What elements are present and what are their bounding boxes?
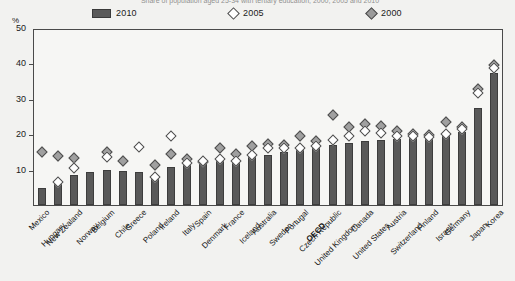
- hollow-diamond-icon: [227, 7, 240, 20]
- bar-2010[interactable]: [103, 170, 111, 205]
- y-axis-tick-label: 20: [6, 129, 26, 139]
- chart-column[interactable]: [292, 30, 308, 205]
- chart-column[interactable]: [373, 30, 389, 205]
- chart-column[interactable]: [308, 30, 324, 205]
- bar-2010[interactable]: [377, 140, 385, 205]
- marker-2000[interactable]: [295, 130, 306, 141]
- chart-column[interactable]: [437, 30, 453, 205]
- chart-column[interactable]: [324, 30, 340, 205]
- bar-2010[interactable]: [329, 145, 337, 205]
- y-axis-tick-label: 50: [6, 23, 26, 33]
- chart-legend: 2010 2005 2000: [0, 6, 515, 20]
- marker-2000[interactable]: [440, 117, 451, 128]
- y-axis-tick-label: 30: [6, 94, 26, 104]
- bar-2010[interactable]: [264, 155, 272, 205]
- marker-2000[interactable]: [117, 155, 128, 166]
- bar-2010[interactable]: [312, 148, 320, 205]
- marker-2005[interactable]: [69, 162, 80, 173]
- chart-column[interactable]: [115, 30, 131, 205]
- bar-swatch-icon: [92, 9, 111, 18]
- marker-2000[interactable]: [327, 110, 338, 121]
- bar-2010[interactable]: [280, 152, 288, 205]
- bar-2010[interactable]: [38, 188, 46, 205]
- bar-2010[interactable]: [86, 172, 94, 205]
- marker-2000[interactable]: [165, 148, 176, 159]
- chart-column[interactable]: [260, 30, 276, 205]
- chart-column[interactable]: [195, 30, 211, 205]
- chart-column[interactable]: [341, 30, 357, 205]
- legend-label-2010: 2010: [116, 8, 137, 18]
- legend-label-2000: 2000: [381, 8, 402, 18]
- bar-2010[interactable]: [409, 138, 417, 205]
- chart-column[interactable]: [50, 30, 66, 205]
- marker-2000[interactable]: [149, 159, 160, 170]
- x-axis-label-finland: Finland: [416, 208, 441, 233]
- x-axis-label-austria: Austria: [384, 208, 408, 232]
- bar-2010[interactable]: [135, 172, 143, 205]
- chart-column[interactable]: [244, 30, 260, 205]
- legend-label-2005: 2005: [243, 8, 264, 18]
- x-axis-label-korea: Korea: [484, 208, 505, 229]
- marker-2000[interactable]: [36, 147, 47, 158]
- chart-root: Share of population aged 25-34 with tert…: [0, 0, 515, 281]
- bar-2010[interactable]: [70, 175, 78, 205]
- chart-column[interactable]: [131, 30, 147, 205]
- chart-column[interactable]: [147, 30, 163, 205]
- bar-2010[interactable]: [183, 165, 191, 205]
- chart-column[interactable]: [179, 30, 195, 205]
- bar-2010[interactable]: [119, 171, 127, 205]
- bar-2010[interactable]: [216, 160, 224, 205]
- marker-2005[interactable]: [375, 127, 386, 138]
- chart-column[interactable]: [228, 30, 244, 205]
- chart-title: Share of population aged 25-34 with tert…: [85, 0, 435, 5]
- bar-2010[interactable]: [248, 157, 256, 205]
- bar-2010[interactable]: [167, 167, 175, 205]
- chart-column[interactable]: [82, 30, 98, 205]
- plot-inner: [34, 30, 502, 205]
- bar-2010[interactable]: [199, 163, 207, 205]
- bar-2010[interactable]: [458, 132, 466, 205]
- marker-2000[interactable]: [53, 150, 64, 161]
- chart-column[interactable]: [276, 30, 292, 205]
- x-axis-label-ireland: Ireland: [157, 208, 181, 232]
- chart-column[interactable]: [163, 30, 179, 205]
- x-axis-label-mexico: Mexico: [27, 208, 51, 232]
- chart-column[interactable]: [421, 30, 437, 205]
- chart-column[interactable]: [99, 30, 115, 205]
- bar-2010[interactable]: [425, 137, 433, 205]
- bar-2010[interactable]: [296, 150, 304, 205]
- bar-2010[interactable]: [361, 141, 369, 205]
- legend-item-2000[interactable]: 2000: [367, 6, 402, 20]
- bar-2010[interactable]: [490, 73, 498, 205]
- chart-column[interactable]: [486, 30, 502, 205]
- x-axis-label-france: France: [222, 208, 246, 232]
- solid-diamond-icon: [365, 7, 378, 20]
- chart-column[interactable]: [405, 30, 421, 205]
- bar-2010[interactable]: [345, 143, 353, 205]
- marker-2005[interactable]: [165, 130, 176, 141]
- marker-2005[interactable]: [359, 125, 370, 136]
- chart-column[interactable]: [34, 30, 50, 205]
- chart-column[interactable]: [389, 30, 405, 205]
- bar-2010[interactable]: [393, 139, 401, 205]
- bar-2010[interactable]: [474, 108, 482, 205]
- y-axis-tick-label: 10: [6, 165, 26, 175]
- y-axis-tick-label: 40: [6, 58, 26, 68]
- chart-column[interactable]: [212, 30, 228, 205]
- legend-item-2010[interactable]: 2010: [92, 6, 137, 20]
- marker-2005[interactable]: [133, 142, 144, 153]
- marker-2005[interactable]: [327, 134, 338, 145]
- chart-column[interactable]: [357, 30, 373, 205]
- marker-2005[interactable]: [343, 130, 354, 141]
- chart-column[interactable]: [66, 30, 82, 205]
- plot-area: [33, 29, 503, 206]
- x-axis-label-spain: Spain: [193, 208, 214, 229]
- chart-column[interactable]: [454, 30, 470, 205]
- bar-2010[interactable]: [442, 135, 450, 205]
- chart-column[interactable]: [470, 30, 486, 205]
- legend-item-2005[interactable]: 2005: [229, 6, 264, 20]
- x-axis-label-greece: Greece: [124, 208, 149, 233]
- x-axis-labels: MexicoHungaryNew ZealandNorwayBelgiumChi…: [33, 208, 503, 281]
